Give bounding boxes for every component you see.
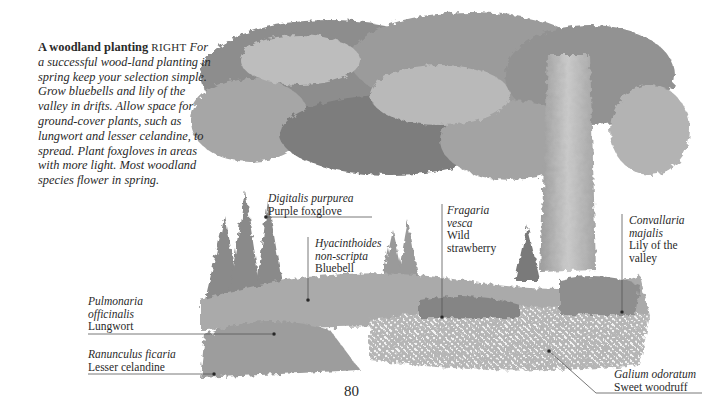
latin-name: Fragaria vesca: [447, 204, 512, 229]
latin-name: Pulmonaria officinalis: [88, 295, 158, 320]
tree-trunk: [540, 55, 596, 272]
latin-name: Hyacinthoides non-scripta: [315, 237, 405, 262]
label-wild-strawberry: Fragaria vesca Wild strawberry: [447, 204, 512, 254]
label-foxglove: Digitalis purpurea Purple foxglove: [268, 192, 354, 217]
common-name: Wild strawberry: [447, 229, 512, 254]
latin-name: Galium odoratum: [614, 368, 696, 381]
label-bluebell: Hyacinthoides non-scripta Bluebell: [315, 237, 405, 275]
common-name: Bluebell: [315, 262, 405, 275]
label-sweet-woodruff: Galium odoratum Sweet woodruff: [614, 368, 696, 393]
intro-caption: A woodland planting RIGHT For a successf…: [38, 40, 213, 188]
caption-direction: RIGHT: [151, 41, 186, 53]
common-name: Lily of the valley: [629, 239, 704, 264]
ground-cover: [200, 273, 650, 378]
label-lesser-celandine: Ranunculus ficaria Lesser celandine: [88, 348, 176, 373]
common-name: Sweet woodruff: [614, 381, 696, 394]
common-name: Lungwort: [88, 320, 158, 333]
latin-name: Ranunculus ficaria: [88, 348, 176, 361]
latin-name: Digitalis purpurea: [268, 192, 354, 205]
tree-canopy: [190, 12, 690, 180]
caption-title: A woodland planting: [38, 40, 148, 54]
page-number: 80: [344, 383, 359, 400]
label-lungwort: Pulmonaria officinalis Lungwort: [88, 295, 158, 333]
caption-body: For a successful wood-land planting in s…: [38, 40, 211, 187]
latin-name: Convallaria majalis: [629, 214, 704, 239]
common-name: Purple foxglove: [268, 205, 354, 218]
label-lily-of-the-valley: Convallaria majalis Lily of the valley: [629, 214, 704, 264]
common-name: Lesser celandine: [88, 361, 176, 374]
